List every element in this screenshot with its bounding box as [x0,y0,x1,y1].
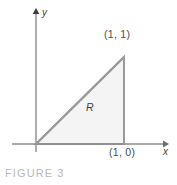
region-label-r: R [86,102,94,113]
point-label-one-zero: (1, 0) [109,147,135,158]
point-label-one-one: (1, 1) [104,29,130,40]
x-axis-label: x [163,147,168,157]
figure-container: (1, 1) (1, 0) R y x FIGURE 3 [0,0,177,185]
y-axis-arrow-icon [33,8,40,14]
figure-caption: FIGURE 3 [5,167,65,179]
y-axis-label: y [42,8,47,18]
plot-area [0,0,177,165]
